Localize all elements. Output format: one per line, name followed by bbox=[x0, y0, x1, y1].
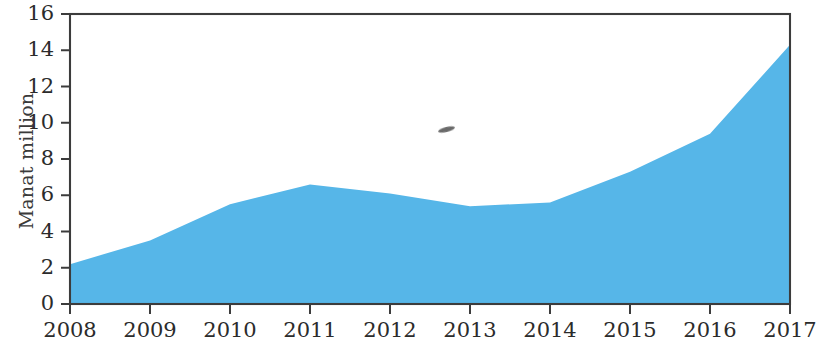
x-axis-tick-label: 2011 bbox=[267, 320, 353, 341]
x-axis-tick-label: 2008 bbox=[27, 320, 113, 341]
x-axis-tick-label: 2014 bbox=[507, 320, 593, 341]
area-chart: Manat million 0246810121416 200820092010… bbox=[0, 0, 818, 342]
x-axis-tick-label: 2016 bbox=[667, 320, 753, 341]
x-axis-tick-label: 2015 bbox=[587, 320, 673, 341]
x-axis-tick-labels: 2008200920102011201220132014201520162017 bbox=[0, 0, 818, 342]
x-axis-tick-label: 2013 bbox=[427, 320, 513, 341]
x-axis-tick-label: 2012 bbox=[347, 320, 433, 341]
x-axis-tick-label: 2017 bbox=[747, 320, 818, 341]
x-axis-tick-label: 2009 bbox=[107, 320, 193, 341]
x-axis-tick-label: 2010 bbox=[187, 320, 273, 341]
